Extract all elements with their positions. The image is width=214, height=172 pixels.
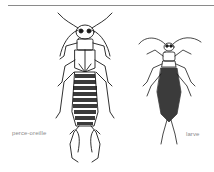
adult-earwig-illustration — [50, 12, 120, 164]
larva-label: larve — [186, 131, 200, 137]
adult-label: perce-oreille — [12, 130, 46, 136]
top-rule — [8, 5, 214, 6]
larva-illustration — [135, 34, 207, 146]
